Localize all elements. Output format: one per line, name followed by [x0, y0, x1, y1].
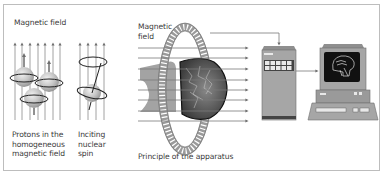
signal-connector: [210, 33, 279, 44]
proton-spheres: [10, 55, 63, 115]
diagram-artwork: [0, 0, 386, 177]
inciting-spin-sphere: [76, 57, 107, 110]
computing-cabinet: [262, 46, 296, 120]
field-lines-panel2: [80, 44, 104, 120]
patient-brain: [180, 59, 227, 120]
display-workstation: [308, 44, 378, 120]
